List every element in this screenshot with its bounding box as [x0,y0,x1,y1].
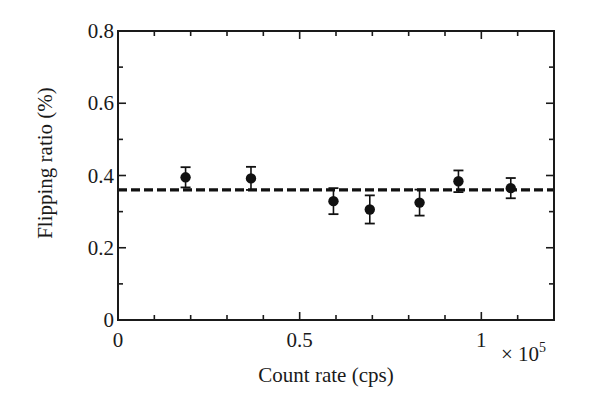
marker-circle [180,172,190,182]
x-tick-label: 0 [113,328,124,352]
y-tick-label: 0.6 [88,91,114,115]
marker-circle [365,204,375,214]
marker-circle [506,183,516,193]
data-point [365,195,375,223]
marker-circle [414,197,424,207]
data-point [328,188,338,214]
data-points [180,167,516,224]
y-axis-label: Flipping ratio (%) [33,87,57,239]
x-tick-label: 0.5 [287,328,313,352]
x-multiplier-exponent: 5 [539,340,546,355]
data-point [180,167,190,187]
x-axis-label: Count rate (cps) [258,363,393,387]
marker-circle [246,173,256,183]
data-point [414,190,424,216]
y-tick-label: 0 [104,308,115,332]
x-multiplier: × 105 [501,340,546,366]
data-point [246,167,256,190]
marker-circle [328,196,338,206]
x-tick-label: 1 [476,328,487,352]
y-tick-label: 0.8 [88,19,114,43]
flipping-ratio-chart: 00.5100.20.40.60.8 Count rate (cps) Flip… [0,0,590,407]
y-tick-label: 0.2 [88,236,114,260]
tick-labels: 00.5100.20.40.60.8 [88,19,487,352]
y-tick-label: 0.4 [88,164,115,188]
marker-circle [453,176,463,186]
data-point [506,178,516,198]
x-multiplier-base: × 10 [501,342,539,366]
